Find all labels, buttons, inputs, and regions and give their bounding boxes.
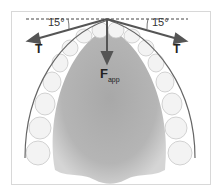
angle-label-left: 15° (48, 16, 65, 28)
dental-arch-diagram (0, 0, 219, 187)
angle-label-right: 15° (152, 16, 169, 28)
tension-label-right: T (173, 42, 180, 56)
applied-force-label: Fapp (100, 66, 120, 83)
tension-label-left: T (35, 42, 42, 56)
